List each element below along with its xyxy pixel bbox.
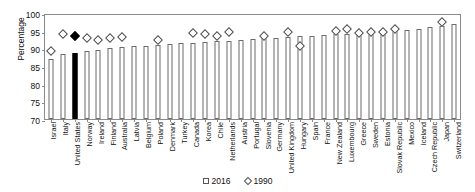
x-label-slot: Portugal <box>247 122 259 174</box>
chart-column <box>365 15 377 119</box>
bar-2016 <box>167 44 172 119</box>
bar-2016 <box>452 24 457 119</box>
x-label-slot: Finland <box>104 122 116 174</box>
y-tick-label: 95 <box>31 28 40 38</box>
x-label-slot: Ireland <box>92 122 104 174</box>
chart-column <box>425 15 437 119</box>
chart-legend: 2016 1990 <box>0 176 475 186</box>
x-label-slot: Israel <box>44 122 56 174</box>
chart-column <box>247 15 259 119</box>
diamond-1990 <box>200 29 210 39</box>
chart-figure: Percentage 707580859095100 IsraelItalyUn… <box>0 0 475 192</box>
diamond-1990 <box>105 33 115 43</box>
chart-column <box>413 15 425 119</box>
square-marker-icon <box>203 178 209 184</box>
x-label-slot: Slovenia <box>259 122 271 174</box>
chart-column <box>294 15 306 119</box>
bar-2016 <box>96 50 101 119</box>
x-label-slot: Mexico <box>402 122 414 174</box>
bar-2016 <box>369 32 374 119</box>
bar-2016 <box>214 41 219 119</box>
x-label-slot: Norway <box>80 122 92 174</box>
chart-column <box>152 15 164 119</box>
legend-label-1990: 1990 <box>254 176 273 186</box>
bar-2016 <box>380 31 385 119</box>
chart-column <box>69 15 81 119</box>
bar-2016 <box>286 37 291 119</box>
chart-column <box>45 15 57 119</box>
diamond-1990 <box>224 27 234 37</box>
x-label-slot: Austria <box>235 122 247 174</box>
y-tick-label: 75 <box>31 98 40 108</box>
bar-2016 <box>60 54 65 119</box>
chart-column <box>448 15 460 119</box>
bar-2016 <box>179 43 184 119</box>
x-label-slot: Latvia <box>127 122 139 174</box>
bar-2016 <box>416 29 421 119</box>
x-label-slot: France <box>318 122 330 174</box>
bar-2016 <box>191 43 196 119</box>
x-label-slot: Spain <box>306 122 318 174</box>
chart-column <box>282 15 294 119</box>
x-label-slot: United States <box>68 122 80 174</box>
x-label-slot: Iceland <box>414 122 426 174</box>
chart-column <box>187 15 199 119</box>
chart-column <box>140 15 152 119</box>
legend-item-2016: 2016 <box>203 176 231 186</box>
y-tick-label: 85 <box>31 63 40 73</box>
x-label-slot: Korea <box>199 122 211 174</box>
diamond-1990 <box>46 46 56 56</box>
bar-2016 <box>203 42 208 119</box>
bar-2016 <box>226 41 231 119</box>
x-label-slot: Slovak Republic <box>390 122 402 174</box>
chart-column <box>270 15 282 119</box>
y-tick-label: 70 <box>31 116 40 126</box>
chart-column <box>81 15 93 119</box>
bar-2016 <box>131 46 136 119</box>
chart-column <box>199 15 211 119</box>
x-label-slot: Japan <box>437 122 449 174</box>
x-label-slot: Hungary <box>294 122 306 174</box>
chart-column <box>330 15 342 119</box>
x-label-slot: Czech Republic <box>426 122 438 174</box>
x-tick-label: Switzerland <box>455 122 462 159</box>
x-label-slot: Italy <box>56 122 68 174</box>
bar-2016 <box>84 51 89 119</box>
chart-column <box>341 15 353 119</box>
diamond-1990 <box>58 29 68 39</box>
x-label-slot: Chile <box>211 122 223 174</box>
x-label-slot: Poland <box>151 122 163 174</box>
plot-area: 707580859095100 <box>44 14 461 120</box>
x-label-slot: Estonia <box>378 122 390 174</box>
diamond-1990 <box>153 35 163 45</box>
x-label-slot: Germany <box>271 122 283 174</box>
bar-2016 <box>48 59 53 119</box>
x-axis-labels: IsraelItalyUnited StatesNorwayIrelandFin… <box>44 122 461 174</box>
bar-2016 <box>428 27 433 119</box>
legend-label-2016: 2016 <box>212 176 231 186</box>
chart-column <box>235 15 247 119</box>
x-label-slot: New Zealand <box>330 122 342 174</box>
chart-column <box>116 15 128 119</box>
bar-2016 <box>357 33 362 119</box>
chart-column <box>436 15 448 119</box>
chart-column <box>104 15 116 119</box>
chart-column <box>318 15 330 119</box>
x-label-slot: Denmark <box>163 122 175 174</box>
x-label-slot: Netherlands <box>223 122 235 174</box>
legend-item-1990: 1990 <box>245 176 273 186</box>
chart-column <box>211 15 223 119</box>
bar-2016 <box>309 36 314 119</box>
x-label-slot: Australia <box>116 122 128 174</box>
diamond-marker-icon <box>243 177 251 185</box>
y-tick-label: 80 <box>31 81 40 91</box>
bar-2016 <box>440 26 445 119</box>
diamond-1990 <box>212 31 222 41</box>
chart-column <box>223 15 235 119</box>
chart-column <box>389 15 401 119</box>
x-label-slot: Sweden <box>366 122 378 174</box>
bar-2016 <box>321 35 326 119</box>
chart-column <box>353 15 365 119</box>
bar-2016 <box>274 38 279 119</box>
y-tick-label: 90 <box>31 45 40 55</box>
